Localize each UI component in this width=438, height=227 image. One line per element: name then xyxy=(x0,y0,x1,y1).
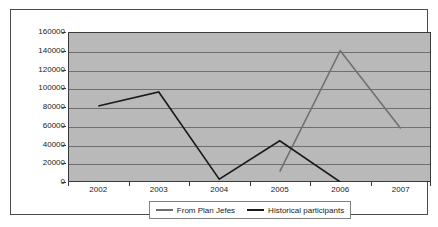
gridline xyxy=(69,52,430,53)
legend-entry: From Plan Jefes xyxy=(156,206,235,215)
chart-legend: From Plan JefesHistorical participants xyxy=(149,201,351,219)
gridline xyxy=(69,146,430,147)
x-axis-tick-label: 2007 xyxy=(381,185,421,195)
chart-container: 0200004000060000800001000001200001400001… xyxy=(0,0,438,227)
legend-entry: Historical participants xyxy=(247,206,344,215)
legend-line-swatch xyxy=(247,209,264,211)
x-axis-tick-label: 2003 xyxy=(139,185,179,195)
x-axis-tick-labels: 200220032004200520062007 xyxy=(68,185,431,199)
y-axis-tick-mark xyxy=(62,107,66,108)
gridline xyxy=(69,127,430,128)
y-axis-tick-mark xyxy=(62,32,66,33)
legend-label: From Plan Jefes xyxy=(177,206,235,215)
y-axis-tick-mark xyxy=(62,182,66,183)
legend-line-swatch xyxy=(156,209,173,211)
y-axis-tick-mark xyxy=(62,163,66,164)
y-axis-tick-mark xyxy=(62,70,66,71)
gridline xyxy=(69,89,430,90)
x-axis-tick-label: 2004 xyxy=(199,185,239,195)
legend-label: Historical participants xyxy=(268,206,344,215)
y-axis-tick-mark xyxy=(62,126,66,127)
y-axis-tick-mark xyxy=(62,88,66,89)
y-axis-tick-mark xyxy=(62,51,66,52)
x-axis-tick-label: 2006 xyxy=(320,185,360,195)
figure-frame: 0200004000060000800001000001200001400001… xyxy=(10,9,428,215)
gridline xyxy=(69,71,430,72)
gridline xyxy=(69,108,430,109)
x-axis-tick-label: 2002 xyxy=(78,185,118,195)
plot-area xyxy=(68,32,431,182)
y-axis-tick-marks xyxy=(11,32,68,182)
gridline xyxy=(69,164,430,165)
x-axis-tick-label: 2005 xyxy=(260,185,300,195)
y-axis-tick-mark xyxy=(62,145,66,146)
